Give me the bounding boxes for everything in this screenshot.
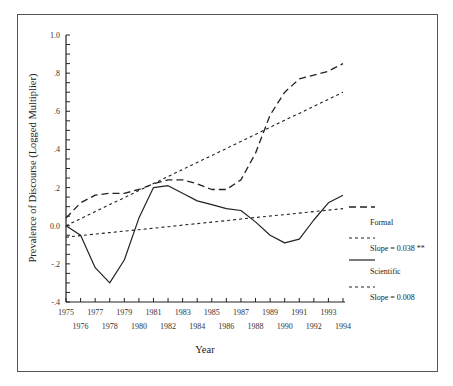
x-tick-label: 1992 <box>306 322 322 331</box>
series-line-2 <box>66 186 343 283</box>
y-axis-title: Prevalence of Discourse (Logged Multipli… <box>27 73 39 262</box>
x-tick-label: 1987 <box>233 308 249 317</box>
x-tick-label: 1986 <box>218 322 234 331</box>
x-tick-label: 1975 <box>58 308 74 317</box>
legend: Formal Slope = 0.038 ** Scientific Slope… <box>349 207 425 302</box>
x-tick-label: 1982 <box>160 322 176 331</box>
y-tick-label: 0.0 <box>50 222 60 231</box>
legend-formal-slope: Slope = 0.038 ** <box>370 244 425 253</box>
legend-scientific-slope: Slope = 0.008 <box>370 293 415 302</box>
y-tick-label: .6 <box>54 107 60 116</box>
y-tick-label: .8 <box>54 69 60 78</box>
x-tick-label: 1981 <box>145 308 161 317</box>
x-tick-label: 1991 <box>291 308 307 317</box>
y-tick-label: .4 <box>54 145 60 154</box>
x-tick-label: 1984 <box>189 322 205 331</box>
x-tick-label: 1978 <box>102 322 118 331</box>
line-chart: 1.0.8.6.4.20.0-.2-.419751977197919811983… <box>0 0 453 386</box>
series-line-1 <box>66 92 343 226</box>
x-tick-label: 1980 <box>131 322 147 331</box>
series-line-3 <box>66 209 343 238</box>
y-tick-label: -.4 <box>51 298 60 307</box>
x-tick-label: 1976 <box>73 322 89 331</box>
x-tick-label: 1979 <box>116 308 132 317</box>
y-tick-label: 1.0 <box>50 31 60 40</box>
x-axis-title: Year <box>195 344 215 355</box>
x-tick-label: 1988 <box>248 322 264 331</box>
series-line-0 <box>66 64 343 219</box>
legend-formal-label: Formal <box>370 218 394 227</box>
axes: 1.0.8.6.4.20.0-.2-.419751977197919811983… <box>50 31 351 331</box>
x-tick-label: 1977 <box>87 308 103 317</box>
x-tick-label: 1983 <box>175 308 191 317</box>
x-tick-label: 1990 <box>277 322 293 331</box>
x-tick-label: 1989 <box>262 308 278 317</box>
x-tick-label: 1985 <box>204 308 220 317</box>
y-tick-label: -.2 <box>51 260 60 269</box>
x-tick-label: 1994 <box>335 322 351 331</box>
x-tick-label: 1993 <box>320 308 336 317</box>
plot-lines <box>66 64 343 283</box>
y-tick-label: .2 <box>54 184 60 193</box>
legend-scientific-label: Scientific <box>370 267 401 276</box>
